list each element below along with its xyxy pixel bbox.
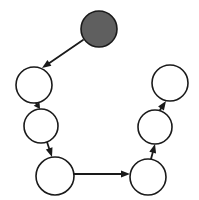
start-node-filled-shape[interactable]: [81, 11, 117, 47]
node-upper-right[interactable]: [152, 65, 188, 101]
edge-middle-right-to-upper-right-shaft: [160, 108, 161, 110]
node-upper-left[interactable]: [16, 67, 52, 103]
node-lower-right[interactable]: [130, 159, 166, 195]
node-lower-right-shape[interactable]: [130, 159, 166, 195]
node-lower-left-shape[interactable]: [36, 157, 74, 195]
node-middle-left[interactable]: [24, 109, 58, 143]
node-middle-right[interactable]: [138, 110, 172, 144]
node-graph-diagram: [0, 0, 199, 200]
node-middle-left-shape[interactable]: [24, 109, 58, 143]
node-upper-left-shape[interactable]: [16, 67, 52, 103]
node-lower-left[interactable]: [36, 157, 74, 195]
start-node-filled[interactable]: [81, 11, 117, 47]
node-upper-right-shape[interactable]: [152, 65, 188, 101]
node-middle-right-shape[interactable]: [138, 110, 172, 144]
